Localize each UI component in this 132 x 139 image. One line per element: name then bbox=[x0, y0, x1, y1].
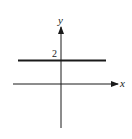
y-axis-label: y bbox=[57, 14, 63, 26]
graph: y x 2 bbox=[0, 0, 132, 139]
x-axis-label: x bbox=[119, 77, 125, 89]
y-intercept-label: 2 bbox=[52, 48, 57, 59]
